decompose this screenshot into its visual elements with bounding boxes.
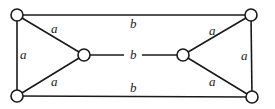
graph-diagram: b b b a a a a a a (0, 0, 275, 109)
label-right-vertical-a: a (241, 48, 248, 63)
label-bottom-b: b (130, 80, 137, 95)
label-right-lower-a: a (209, 74, 216, 89)
label-left-vertical-a: a (20, 47, 27, 62)
label-right-upper-a: a (209, 23, 216, 38)
node-left-middle (78, 49, 90, 61)
node-top-right (245, 9, 257, 21)
label-middle-b: b (130, 47, 137, 62)
label-left-lower-a: a (51, 74, 58, 89)
edge-right-vertical-a (251, 15, 252, 97)
node-right-middle (177, 49, 189, 61)
node-top-left (11, 9, 23, 21)
label-left-upper-a: a (51, 21, 58, 36)
node-bottom-right (246, 91, 258, 103)
label-top-b: b (130, 16, 137, 31)
edge-bottom-b (17, 96, 252, 97)
node-bottom-left (11, 90, 23, 102)
